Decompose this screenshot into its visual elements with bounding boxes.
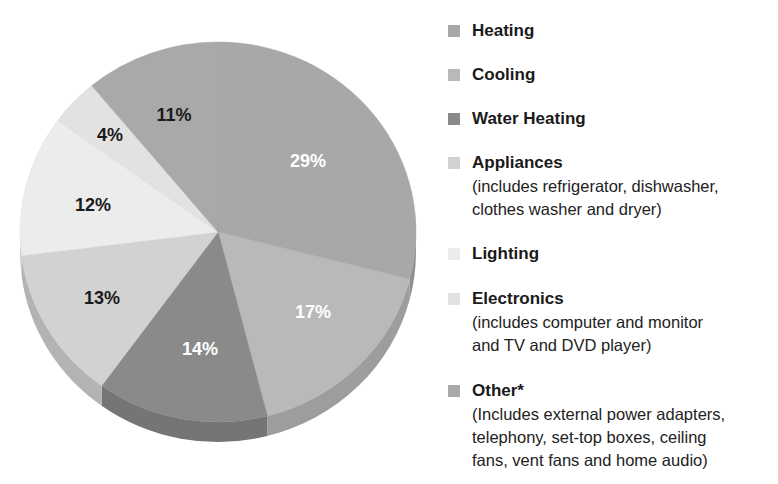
slice-value-label: 17% [295, 302, 331, 322]
legend-desc: (Includes external power adapters, telep… [472, 403, 778, 472]
slice-value-label: 13% [84, 288, 120, 308]
swatch-cooling [448, 69, 460, 81]
swatch-heating [448, 25, 460, 37]
swatch-lighting [448, 248, 460, 260]
pie-top [20, 42, 416, 422]
legend-title: Water Heating [472, 107, 586, 131]
swatch-electronics [448, 293, 460, 305]
legend-desc: (includes refrigerator, dishwasher, clot… [472, 175, 778, 221]
slice-value-label: 4% [97, 125, 123, 145]
swatch-water-heating [448, 113, 460, 125]
legend-title: Heating [472, 19, 534, 43]
legend-desc: (includes computer and monitor and TV an… [472, 311, 778, 357]
slice-value-label: 29% [290, 151, 326, 171]
pie-chart: 29%17%14%13%12%4%11% [0, 0, 440, 484]
swatch-other [448, 385, 460, 397]
slice-value-label: 14% [182, 339, 218, 359]
legend-title: Appliances [472, 151, 563, 175]
slice-value-label: 12% [75, 195, 111, 215]
slice-value-label: 11% [156, 105, 191, 125]
swatch-appliances [448, 157, 460, 169]
legend-title: Other* [472, 379, 524, 403]
legend-title: Lighting [472, 242, 539, 266]
legend-title: Cooling [472, 63, 535, 87]
legend-title: Electronics [472, 287, 564, 311]
